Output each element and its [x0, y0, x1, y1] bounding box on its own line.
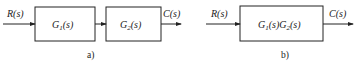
block-g1g2-label: G1(s)G2(s) [258, 19, 301, 32]
block-g1-label: G1(s) [52, 19, 74, 32]
input-label-b: R(s) [210, 8, 228, 20]
output-label-a: C(s) [163, 8, 181, 20]
caption-a: a) [87, 50, 94, 61]
block-g2-label: G2(s) [120, 19, 142, 32]
input-label-a: R(s) [6, 8, 24, 20]
series-diagram: R(s) G1(s) G2(s) C(s) a) [3, 7, 181, 61]
block-diagram: R(s) G1(s) G2(s) C(s) a) R(s) G1(s)G2(s)… [0, 0, 356, 62]
output-label-b: C(s) [329, 8, 347, 20]
caption-b: b) [281, 50, 289, 61]
equivalent-diagram: R(s) G1(s)G2(s) C(s) b) [206, 6, 353, 61]
